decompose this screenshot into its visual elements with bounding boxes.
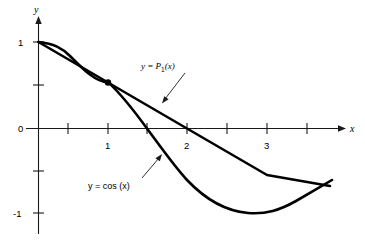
tangency-point-dot [105,79,111,85]
p1-leader-line [165,73,185,99]
cos-leader [142,154,162,178]
p1-leader-arrowhead [162,96,169,103]
cos-leader-arrowhead [155,154,162,161]
p1-curve-label: y = P1(x) [140,61,175,73]
cosine-taylor-plot: y x 1 0 -1 1 2 3 y = P1(x) y = cos (x) [0,0,365,241]
y-tick-label-neg1: -1 [13,208,21,219]
y-tick-label-1: 1 [18,37,23,48]
y-tick-label-0: 0 [18,123,23,134]
cos-curve-label: y = cos (x) [88,181,130,191]
y-axis-label: y [33,4,39,15]
p1-label-suffix: (x) [165,61,175,71]
x-tick-label-1: 1 [105,140,110,151]
y-axis-group [33,16,44,234]
x-tick-label-2: 2 [184,140,189,151]
taylor-line-p1 [39,42,331,186]
x-axis-label: x [349,123,355,134]
y-axis-arrowhead [35,16,41,24]
x-axis-arrowhead [338,125,346,131]
figure-container: y x 1 0 -1 1 2 3 y = P1(x) y = cos (x) [0,0,365,241]
x-tick-label-3: 3 [264,140,269,151]
p1-label-prefix: y = P [140,61,162,71]
p1-leader [162,73,185,104]
cos-leader-line [142,158,159,178]
